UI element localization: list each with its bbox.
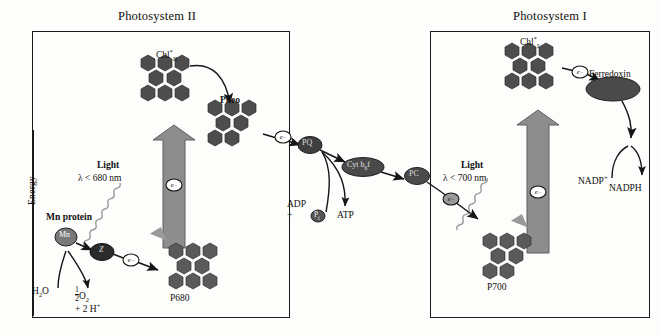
adp-label: ADP — [287, 200, 306, 210]
mn-ellipse-label: Mn — [59, 231, 70, 239]
oxygen-output-arrow — [68, 251, 88, 288]
nadp-label: NADP+ — [578, 175, 608, 187]
adp-input-curve — [322, 152, 329, 212]
pi-label: Pi — [314, 211, 320, 221]
psi-excitation-arrow — [517, 110, 559, 253]
psi-wavelength-label: λ < 700 nm — [443, 174, 486, 184]
psi-light-wave — [456, 177, 530, 230]
oxygen-label: 12O2 — [75, 287, 89, 304]
psi-chl-label: Chl*I — [520, 36, 539, 50]
electron-label-pheo: e− — [275, 131, 291, 143]
electron-label-ferredoxin: e− — [572, 66, 588, 78]
electron-label-psi-arrow: e− — [530, 186, 546, 198]
psi-chl-complex — [505, 43, 553, 89]
plus-pi-label: + — [287, 211, 292, 221]
pq-label: PQ — [302, 139, 312, 147]
e-to-p700-arrow — [455, 202, 478, 219]
z-carrier-label: Z — [99, 246, 103, 254]
pheo-complex — [208, 100, 256, 146]
electron-label-psii-arrow: e− — [166, 179, 182, 191]
psii-light-label: Light — [97, 161, 119, 171]
psii-light-wave — [83, 182, 169, 246]
nadp-input-curve — [612, 146, 628, 178]
water-label: H2O — [32, 287, 49, 299]
atp-label: ATP — [337, 211, 354, 221]
pc-to-e-line — [427, 182, 447, 196]
electron-label-pc: e− — [443, 193, 459, 205]
ferredoxin-to-nadph-arrow — [622, 101, 631, 138]
psi-light-label: Light — [461, 161, 483, 171]
p680-complex — [169, 243, 217, 289]
protons-label: + 2 H+ — [75, 303, 100, 315]
cytb6f-to-pc-arrow — [381, 172, 404, 179]
water-input-curve — [58, 251, 66, 288]
pheo-label: Pheo — [220, 96, 240, 106]
p680-label: P680 — [170, 294, 190, 304]
ferredoxin-label: Ferredoxin — [589, 70, 631, 80]
e-to-p680-arrow — [137, 262, 158, 270]
psii-wavelength-label: λ < 680 nm — [78, 174, 121, 184]
electron-label-z: e− — [123, 254, 139, 266]
ferredoxin-ellipse — [586, 77, 640, 101]
z-scheme-diagram: Photosystem II Photosystem I Energy — [0, 0, 659, 336]
psii-chl-label: Chl*II — [156, 49, 177, 63]
nadph-output-arrow — [631, 146, 642, 175]
mn-protein-label: Mn protein — [46, 213, 92, 223]
nadph-label: NADPH — [609, 184, 642, 194]
p700-complex — [483, 233, 531, 279]
cytb6f-label: Cyt b6f — [347, 161, 370, 171]
p700-label: P700 — [487, 283, 507, 293]
pc-label: PC — [409, 170, 419, 178]
